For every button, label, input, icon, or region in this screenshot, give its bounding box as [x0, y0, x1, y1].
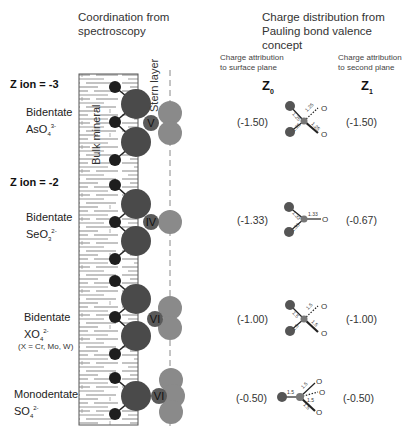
- svg-text:1.5: 1.5: [304, 301, 313, 310]
- z0-value-selenite: (-1.33): [237, 214, 268, 226]
- svg-text:O: O: [321, 329, 327, 338]
- oxidation-label: V: [147, 117, 155, 129]
- arsenate-bond-valence-diagram: O O 1.25 1.25 1.25 1.25: [285, 101, 327, 139]
- svg-text:1.25: 1.25: [310, 120, 321, 131]
- z1-value-xo4: (-1.00): [346, 313, 377, 325]
- svg-text:O: O: [321, 130, 327, 139]
- svg-text:O: O: [319, 388, 325, 397]
- z0-value-sulfate: (-0.50): [236, 392, 267, 404]
- z0-value-xo4: (-1.00): [237, 313, 268, 325]
- svg-text:O: O: [322, 215, 328, 224]
- oxidation-label: VI: [154, 390, 164, 402]
- oxidation-label: IV: [146, 216, 157, 228]
- svg-text:1.5: 1.5: [287, 389, 294, 395]
- z0-value-arsenate: (-1.50): [237, 116, 268, 128]
- svg-text:O: O: [316, 408, 322, 417]
- sulfate-bond-valence-diagram: O O O 1.5 1.5 1.5 1.5: [277, 377, 325, 417]
- svg-text:1.5: 1.5: [291, 310, 300, 319]
- oxidation-label: VI: [150, 313, 160, 325]
- bulk-mineral-label: Bulk mineral: [90, 104, 102, 165]
- svg-text:O: O: [321, 302, 327, 311]
- z1-value-selenite: (-0.67): [346, 214, 377, 226]
- xo4-bond-valence-diagram: O O 1.5 1.5 1.5 1.5: [285, 300, 327, 338]
- svg-text:1.33: 1.33: [308, 211, 318, 217]
- stern-layer-label: Stern layer: [148, 58, 160, 112]
- svg-text:1.25: 1.25: [290, 121, 301, 132]
- svg-text:1.25: 1.25: [303, 101, 314, 112]
- z1-value-sulfate: (-0.50): [343, 392, 374, 404]
- svg-text:1.5: 1.5: [299, 380, 308, 389]
- z1-value-arsenate: (-1.50): [346, 116, 377, 128]
- svg-text:O: O: [321, 104, 327, 113]
- selenite-bond-valence-diagram: O 1.33 1.33 1.33: [284, 202, 328, 237]
- svg-text:O: O: [316, 377, 322, 386]
